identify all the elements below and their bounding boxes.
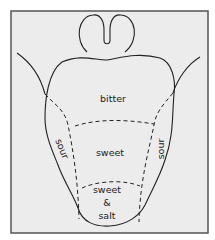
tongue-diagram: bitter sweet sweet & salt sour sour [0,0,215,240]
label-tip-salt: salt [98,210,115,221]
label-sweet: sweet [96,147,124,158]
label-tip-sweet: sweet [93,184,121,195]
label-sour-right: sour [155,139,166,160]
label-tip-and: & [103,197,111,208]
label-bitter: bitter [100,93,126,104]
